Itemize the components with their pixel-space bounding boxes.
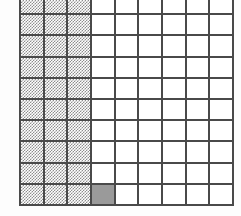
grid-cell [68,100,90,119]
grid-cell [210,164,232,183]
grid-cell [210,79,232,98]
grid-cell [187,185,209,204]
grid-cell [45,142,67,161]
grid-cell [92,164,114,183]
grid-cell [210,100,232,119]
grid-cell [45,0,67,13]
grid-cell [139,142,161,161]
grid-cell [139,79,161,98]
grid-cell [21,79,43,98]
grid-cell [45,164,67,183]
grid-cell [163,164,185,183]
grid-cell [163,185,185,204]
grid-cell [187,79,209,98]
grid-cell [21,100,43,119]
grid-cell [210,58,232,77]
grid-cell [116,164,138,183]
grid-cell [187,142,209,161]
grid-cell [187,100,209,119]
grid-cell [187,15,209,34]
grid-cell [45,185,67,204]
grid-cell [139,121,161,140]
grid-cell [92,36,114,55]
grid-cell [163,121,185,140]
grid-cell [187,164,209,183]
grid-cell [68,36,90,55]
grid-cell [92,185,114,204]
grid-cell [116,121,138,140]
grid-cell [163,58,185,77]
grid-cell [92,79,114,98]
grid-cell [45,121,67,140]
grid-cell [139,164,161,183]
grid-cell [68,0,90,13]
grid-cell [45,100,67,119]
grid-cell [21,121,43,140]
grid-cell [116,36,138,55]
grid-cell [21,164,43,183]
grid-cell [92,142,114,161]
grid-cell [163,36,185,55]
grid-cell [68,15,90,34]
grid-cell [139,36,161,55]
grid-cell [21,142,43,161]
grid-cell [68,121,90,140]
grid-cell [187,36,209,55]
grid-cell [68,58,90,77]
grid-cell [116,100,138,119]
grid-cell [21,15,43,34]
grid-cell [21,185,43,204]
grid-cell [139,58,161,77]
grid-cell [139,100,161,119]
grid-cell [187,0,209,13]
grid-cell [163,0,185,13]
grid-cell [92,100,114,119]
grid-cell [45,15,67,34]
grid-cell [163,142,185,161]
grid-cell [116,0,138,13]
grid-cell [45,58,67,77]
grid-cell [116,15,138,34]
grid-cell [68,164,90,183]
grid-cell [163,79,185,98]
grid-cell [163,15,185,34]
shaded-grid [19,0,234,206]
grid-cell [21,0,43,13]
grid-cell [68,79,90,98]
grid-cell [92,58,114,77]
grid-diagram-figure [0,0,241,216]
grid-cell [116,79,138,98]
grid-cell [163,100,185,119]
grid-cell [68,142,90,161]
grid-cell [92,15,114,34]
grid-cell [92,0,114,13]
grid-cell [210,15,232,34]
grid-cell [187,58,209,77]
grid-cell [21,58,43,77]
grid-cell [116,58,138,77]
grid-cell [210,121,232,140]
grid-cell [116,142,138,161]
grid-cell [68,185,90,204]
grid-cell [210,0,232,13]
grid-cell [45,36,67,55]
grid-cell [210,36,232,55]
grid-cell [92,121,114,140]
grid-cell [116,185,138,204]
grid-cell [139,15,161,34]
grid-viewport [19,0,234,206]
grid-cell [210,185,232,204]
grid-cell [21,36,43,55]
grid-cell [139,185,161,204]
grid-cell [187,121,209,140]
grid-cell [139,0,161,13]
grid-cell [45,79,67,98]
grid-cell [210,142,232,161]
